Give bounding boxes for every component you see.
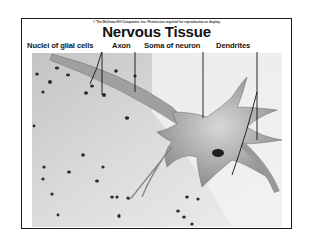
slide-title: Nervous Tissue bbox=[22, 23, 291, 40]
slide-frame: © The McGraw-Hill Companies, Inc. Permis… bbox=[21, 18, 292, 229]
label-glial-nuclei: Nuclei of glial cells bbox=[27, 41, 93, 50]
label-axon: Axon bbox=[112, 41, 131, 50]
label-soma: Soma of neuron bbox=[144, 41, 200, 50]
label-dendrites: Dendrites bbox=[216, 41, 250, 50]
neuron-illustration bbox=[32, 52, 282, 227]
neuron-nucleus bbox=[212, 149, 224, 157]
